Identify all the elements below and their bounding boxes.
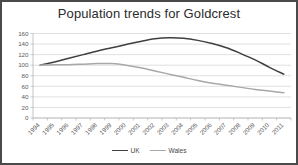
- x-axis-tick-label: 2004: [170, 121, 185, 136]
- chart-container: Population trends for Goldcrest 02040608…: [0, 0, 298, 165]
- x-axis-tick-label: 1997: [69, 121, 84, 136]
- y-axis-tick-label: 80: [22, 72, 29, 79]
- x-axis-tick-label: 1998: [84, 121, 99, 136]
- legend-entry-uk[interactable]: UK: [112, 148, 140, 155]
- series-line-wales: [40, 63, 284, 92]
- y-axis-tick-label: 60: [22, 83, 29, 90]
- legend-swatch-wales: [150, 150, 166, 151]
- x-axis-tick-label: 2000: [112, 121, 127, 136]
- y-axis-tick-label: 40: [22, 93, 29, 100]
- y-axis-tick-label: 100: [18, 61, 29, 68]
- x-axis-tick-label: 2010: [256, 121, 271, 136]
- legend-label-uk: UK: [131, 148, 140, 155]
- x-axis-tick-label: 2005: [184, 121, 199, 136]
- x-axis-tick-label: 1995: [41, 121, 56, 136]
- x-axis-tick-label: 2009: [241, 121, 256, 136]
- series-line-uk: [40, 38, 284, 74]
- y-axis-tick-label: 140: [18, 40, 29, 47]
- x-axis-tick-label: 1994: [26, 121, 41, 136]
- legend-swatch-uk: [112, 150, 128, 151]
- legend-entry-wales[interactable]: Wales: [150, 148, 187, 155]
- legend-label-wales: Wales: [169, 148, 187, 155]
- x-axis-tick-label: 1999: [98, 121, 113, 136]
- chart-plot-area: 0204060801001201401601994199519961997199…: [2, 2, 298, 165]
- x-axis-tick-label: 2003: [155, 121, 170, 136]
- y-axis-tick-label: 20: [22, 104, 29, 111]
- x-axis-tick-label: 2008: [227, 121, 242, 136]
- x-axis-tick-label: 2011: [270, 121, 285, 136]
- y-axis-tick-label: 120: [18, 51, 29, 58]
- x-axis-tick-label: 1996: [55, 121, 70, 136]
- x-axis-tick-label: 2007: [213, 121, 228, 136]
- x-axis-tick-label: 2002: [141, 121, 156, 136]
- y-axis-tick-label: 0: [25, 114, 29, 121]
- x-axis-tick-label: 2001: [127, 121, 142, 136]
- x-axis-tick-label: 2006: [198, 121, 213, 136]
- chart-legend: UKWales: [2, 148, 296, 155]
- y-axis-tick-label: 160: [18, 30, 29, 37]
